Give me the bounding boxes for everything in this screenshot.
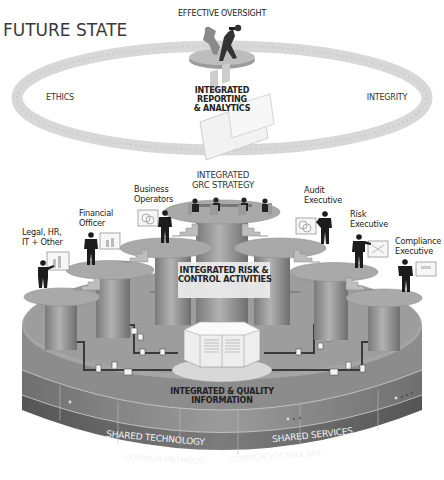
reporting-line-1: INTEGRATED	[187, 86, 257, 95]
legal-figure-icon	[38, 252, 69, 288]
document-repository-icon	[172, 322, 272, 382]
role-label-risk-executive: Risk Executive	[350, 210, 388, 230]
information-line-2: INFORMATION	[160, 396, 284, 405]
integrity-label: INTEGRITY	[357, 93, 417, 102]
role-label-financial-officer: Financial Officer	[79, 209, 113, 229]
effective-oversight-label: EFFECTIVE OVERSIGHT	[157, 9, 287, 18]
risk-figure-icon	[352, 234, 388, 268]
role-line: Executive	[395, 247, 441, 257]
role-label-audit-executive: Audit Executive	[304, 186, 342, 206]
reporting-line-2: REPORTING	[187, 95, 257, 104]
integrated-reporting-label: INTEGRATED REPORTING & ANALYTICS	[187, 86, 257, 114]
compliance-figure-icon	[398, 259, 436, 292]
future-state-diagram: FUTURE STATE EFFECTIVE OVERSIGHT ETHICS …	[0, 0, 444, 480]
page-title: FUTURE STATE	[3, 20, 127, 40]
risk-control-label: INTEGRATED RISK & CONTROL ACTIVITIES	[178, 266, 270, 285]
role-line: Operators	[134, 195, 173, 205]
role-label-compliance-executive: Compliance Executive	[395, 237, 441, 257]
role-label-business-operators: Business Operators	[134, 185, 173, 205]
role-line: Executive	[304, 196, 342, 206]
risk-control-line-2: CONTROL ACTIVITIES	[178, 275, 270, 284]
information-line-1: INTEGRATED & QUALITY	[160, 387, 284, 396]
role-line: IT + Other	[22, 238, 63, 248]
reporting-line-3: & ANALYTICS	[187, 104, 257, 113]
role-line: Officer	[79, 219, 113, 229]
grc-strategy-label: INTEGRATED GRC STRATEGY	[180, 171, 266, 191]
ethics-label: ETHICS	[40, 93, 80, 102]
role-line: Executive	[350, 220, 388, 230]
diagram-graphics	[0, 0, 444, 480]
quality-information-label: INTEGRATED & QUALITY INFORMATION	[160, 387, 284, 405]
strategy-line-2: GRC STRATEGY	[180, 181, 266, 191]
financial-figure-icon	[84, 232, 120, 265]
role-label-legal-hr-it-other: Legal, HR, IT + Other	[22, 228, 63, 248]
